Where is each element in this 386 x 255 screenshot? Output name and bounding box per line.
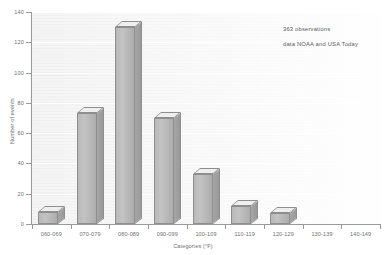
y-axis-tick [26,194,31,195]
bar [115,27,135,224]
x-axis-tick-label: 060-069 [41,231,62,237]
y-axis-line [31,12,32,225]
bar-side-face [97,108,104,224]
bar-side-face [174,113,181,224]
y-axis-tick [26,224,31,225]
y-axis-tick [26,73,31,74]
x-axis-tick [187,224,188,229]
gridline [32,12,380,13]
y-axis-tick [26,12,31,13]
x-axis-line [31,224,380,225]
bar-front-face [77,113,97,224]
x-axis-tick-label: 120-129 [273,231,294,237]
y-axis-tick [26,163,31,164]
bar-chart: 020406080100120140 060-069070-079080-089… [0,0,386,255]
y-axis-title: Number of events [9,71,15,171]
y-axis-tick [26,42,31,43]
bar-front-face [115,27,135,224]
x-axis-tick [71,224,72,229]
bar-front-face [270,213,290,224]
x-axis-tick-label: 140-149 [350,231,371,237]
gridline [32,73,380,74]
y-axis-tick [26,103,31,104]
x-axis-tick [225,224,226,229]
x-axis-tick [148,224,149,229]
bar-front-face [154,118,174,224]
x-axis-title: Categories (°F) [0,243,386,249]
bar [38,212,58,224]
bar [231,206,251,224]
y-axis-tick-label: 40 [18,160,24,166]
x-axis-tick [341,224,342,229]
bar [77,113,97,224]
y-axis-tick-label: 20 [18,191,24,197]
x-axis-tick [303,224,304,229]
y-axis-tick-label: 120 [14,39,24,45]
x-axis-tick [380,224,381,229]
x-axis-tick-label: 100-109 [195,231,216,237]
y-axis-tick-label: 60 [18,130,24,136]
x-axis-tick-label: 130-139 [311,231,332,237]
y-axis-tick-label: 80 [18,100,24,106]
y-axis-tick-label: 140 [14,9,24,15]
y-axis-tick-label: 0 [21,221,24,227]
bar [193,174,213,224]
x-axis-tick-label: 070-079 [79,231,100,237]
x-axis-tick-label: 090-099 [157,231,178,237]
bar [154,118,174,224]
bar-side-face [135,22,142,224]
x-axis-tick-label: 110-119 [234,231,254,237]
gridline [32,103,380,104]
annotation-data-source: data NOAA and USA Today [283,41,358,47]
x-axis-tick [32,224,33,229]
x-axis-tick-label: 080-089 [118,231,139,237]
bar-front-face [231,206,251,224]
bar-front-face [193,174,213,224]
y-axis-tick [26,133,31,134]
bar-front-face [38,212,58,224]
bar-side-face [213,169,220,224]
annotation-observations: 363 observations [283,26,330,32]
bar [270,213,290,224]
y-axis-tick-label: 100 [14,70,24,76]
x-axis-tick [109,224,110,229]
x-axis-tick [264,224,265,229]
